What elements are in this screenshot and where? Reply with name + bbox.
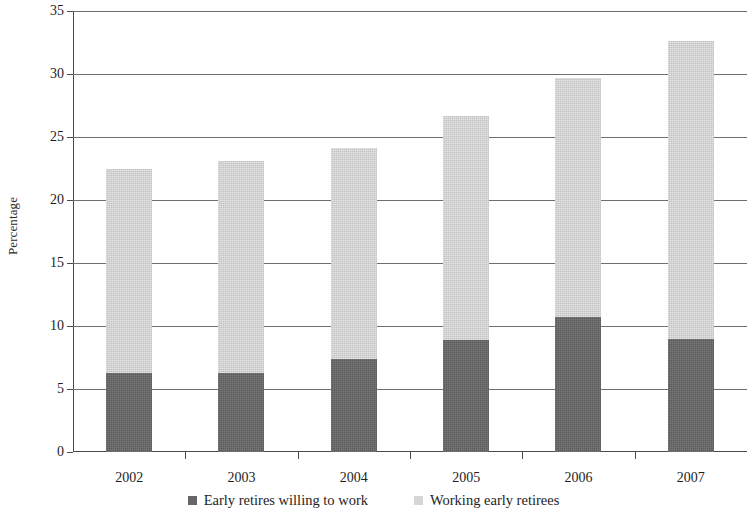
- bar-segment[interactable]: [443, 116, 489, 340]
- x-axis-tick-label: 2005: [452, 470, 480, 486]
- bar-stack[interactable]: [555, 78, 601, 452]
- x-axis-tick-label: 2006: [565, 470, 593, 486]
- y-axis-tick-label: 35: [50, 3, 64, 19]
- bar-group[interactable]: [410, 11, 522, 452]
- y-axis-tick-label: 15: [50, 255, 64, 271]
- x-axis-tick-label: 2003: [228, 470, 256, 486]
- bar-group[interactable]: [635, 11, 747, 452]
- x-axis-tick-label: 2002: [115, 470, 143, 486]
- y-axis-title-text: Percentage: [5, 197, 21, 255]
- x-axis-tick-mark: [298, 452, 299, 459]
- y-axis-tick-label: 30: [50, 66, 64, 82]
- bar-segment[interactable]: [106, 169, 152, 373]
- legend-entry[interactable]: Early retires willing to work: [188, 492, 368, 509]
- legend-entry[interactable]: Working early retirees: [414, 492, 559, 509]
- bar-stack[interactable]: [668, 41, 714, 452]
- bar-stack[interactable]: [331, 148, 377, 452]
- bar-segment[interactable]: [106, 373, 152, 452]
- y-axis-title: Percentage: [0, 0, 26, 452]
- stacked-bar-chart: Percentage 05101520253035 20022003200420…: [0, 0, 747, 521]
- bar-group[interactable]: [522, 11, 634, 452]
- bar-segment[interactable]: [218, 373, 264, 452]
- bar-group[interactable]: [298, 11, 410, 452]
- bar-segment[interactable]: [331, 359, 377, 452]
- bar-segment[interactable]: [443, 340, 489, 452]
- x-axis-tick-mark: [410, 452, 411, 459]
- bar-group[interactable]: [185, 11, 297, 452]
- bar-segment[interactable]: [668, 339, 714, 452]
- bar-group[interactable]: [73, 11, 185, 452]
- y-axis-tick-mark: [67, 452, 73, 453]
- bar-stack[interactable]: [218, 161, 264, 452]
- bar-segment[interactable]: [555, 317, 601, 452]
- bars-layer: [73, 11, 747, 452]
- bar-segment[interactable]: [218, 161, 264, 373]
- x-axis-tick-mark: [185, 452, 186, 459]
- y-axis-tick-label: 20: [50, 192, 64, 208]
- y-axis-tick-label: 10: [50, 318, 64, 334]
- legend-swatch-icon: [188, 496, 197, 505]
- y-axis-tick-label: 5: [57, 381, 64, 397]
- bar-stack[interactable]: [106, 169, 152, 452]
- legend-label: Working early retirees: [430, 492, 559, 509]
- bar-stack[interactable]: [443, 116, 489, 452]
- x-axis-tick-label: 2004: [340, 470, 368, 486]
- x-axis-tick-mark: [635, 452, 636, 459]
- bar-segment[interactable]: [555, 78, 601, 317]
- y-axis-tick-label: 25: [50, 129, 64, 145]
- chart-legend: Early retires willing to workWorking ear…: [0, 492, 747, 509]
- plot-area: 05101520253035 200220032004200520062007: [73, 11, 747, 452]
- legend-swatch-icon: [414, 496, 423, 505]
- y-axis-tick-label: 0: [57, 444, 64, 460]
- bar-segment[interactable]: [331, 148, 377, 358]
- x-axis-tick-mark: [522, 452, 523, 459]
- bar-segment[interactable]: [668, 41, 714, 338]
- legend-label: Early retires willing to work: [204, 492, 368, 509]
- x-axis-tick-label: 2007: [677, 470, 705, 486]
